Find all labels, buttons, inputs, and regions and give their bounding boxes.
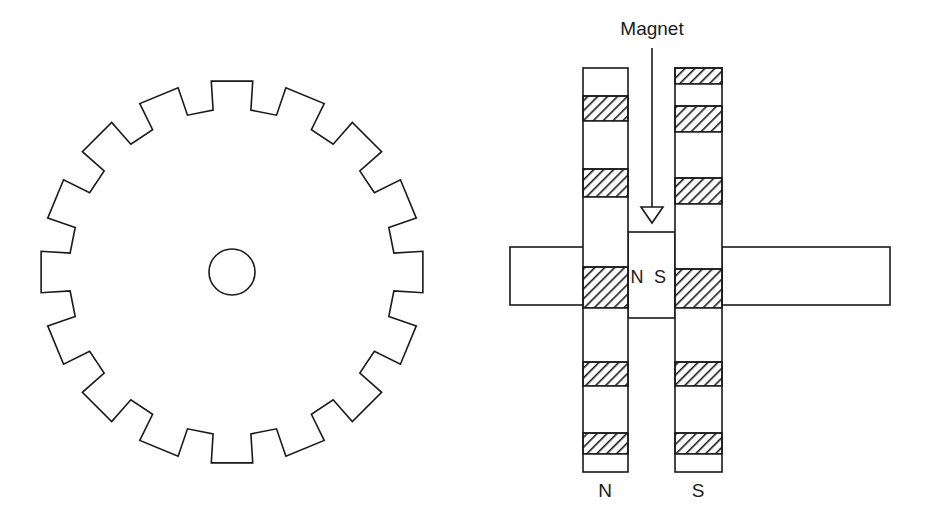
left-pole-plain-band xyxy=(583,454,628,472)
sensor-assembly-group: Magnet N S N S xyxy=(510,18,890,501)
right-pole-hatched-band xyxy=(675,68,722,84)
left-pole-plain-band xyxy=(583,121,628,169)
right-pole-hatched-band xyxy=(675,178,722,204)
right-pole-plain-band xyxy=(675,132,722,178)
right-pole-plain-band xyxy=(675,308,722,362)
left-coil-arm xyxy=(510,247,584,305)
gear-wheel-group xyxy=(41,81,423,463)
right-pole-hatched-band xyxy=(675,106,722,132)
right-pole-hatched-band xyxy=(675,362,722,386)
left-pole-hatched-band xyxy=(583,96,628,121)
left-pole-piece xyxy=(583,68,628,472)
left-pole-hatched-band xyxy=(583,433,628,454)
gear-hub-circle xyxy=(209,249,255,295)
left-pole-hatched-band xyxy=(583,362,628,386)
left-pole-plain-band xyxy=(583,68,628,96)
left-pole-hatched-band xyxy=(583,267,628,308)
left-pole-plain-band xyxy=(583,386,628,433)
left-pole-north-label: N xyxy=(598,480,612,501)
right-pole-plain-band xyxy=(675,204,722,269)
magnet-label: Magnet xyxy=(620,18,684,39)
magnet-south-label: S xyxy=(654,267,666,287)
magnet-north-label: N xyxy=(631,267,644,287)
right-pole-plain-band xyxy=(675,84,722,106)
pointer-arrowhead-icon xyxy=(641,207,663,223)
left-pole-hatched-band xyxy=(583,169,628,197)
magnet-pointer-arrow xyxy=(641,48,663,223)
right-pole-plain-band xyxy=(675,386,722,433)
figure-root: Magnet N S N S xyxy=(0,0,936,522)
right-coil-arm xyxy=(722,247,890,305)
right-pole-hatched-band xyxy=(675,433,722,454)
right-pole-plain-band xyxy=(675,454,722,472)
left-pole-plain-band xyxy=(583,308,628,362)
right-pole-south-label: S xyxy=(692,480,705,501)
left-pole-plain-band xyxy=(583,197,628,267)
right-pole-hatched-band xyxy=(675,269,722,308)
right-pole-piece xyxy=(675,68,722,472)
technical-diagram: Magnet N S N S xyxy=(0,0,936,522)
